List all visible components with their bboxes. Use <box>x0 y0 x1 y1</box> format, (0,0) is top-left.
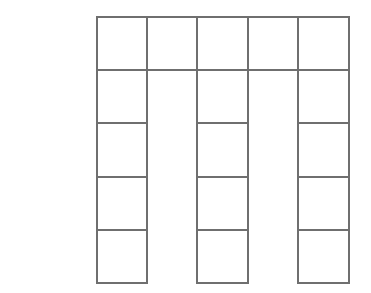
grid-cell <box>97 177 147 230</box>
grid-diagram <box>0 0 371 293</box>
grid-cell <box>97 123 147 176</box>
grid-cell <box>147 17 197 70</box>
grid-cell <box>197 123 247 176</box>
grid-cell <box>97 230 147 283</box>
grid-cell-faces <box>97 17 349 283</box>
grid-cell <box>197 17 247 70</box>
grid-cell <box>248 17 298 70</box>
grid-cell <box>298 230 348 283</box>
grid-cell <box>197 70 247 123</box>
grid-cell <box>298 70 348 123</box>
grid-cell <box>298 123 348 176</box>
grid-cell <box>298 17 348 70</box>
grid-cell <box>298 177 348 230</box>
grid-cell <box>97 70 147 123</box>
grid-cell <box>197 230 247 283</box>
grid-cell <box>197 177 247 230</box>
figure-panel: (e) <box>0 0 371 293</box>
grid-cell <box>97 17 147 70</box>
